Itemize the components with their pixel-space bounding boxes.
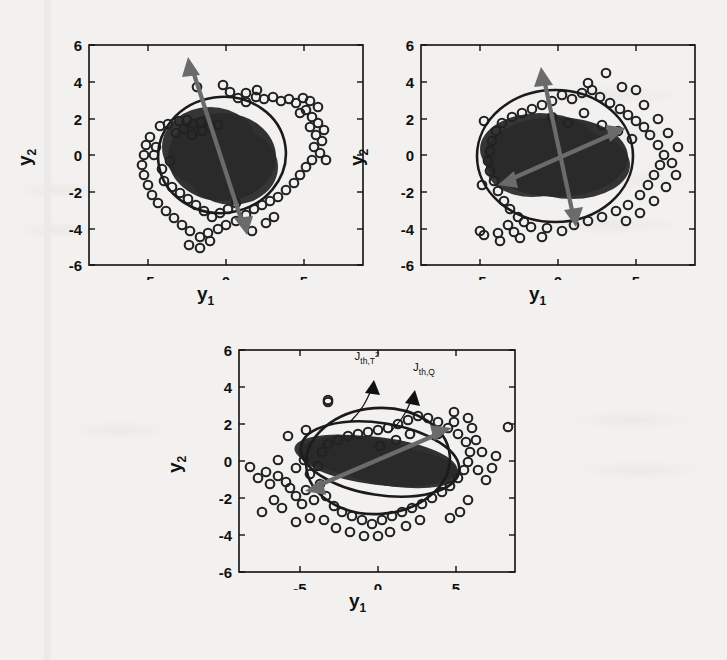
- svg-text:0: 0: [224, 453, 232, 470]
- svg-text:0: 0: [406, 147, 414, 164]
- svg-text:-5: -5: [473, 273, 486, 280]
- svg-text:6: 6: [406, 37, 414, 54]
- x-tick-labels-2: -5 0 5: [473, 273, 640, 280]
- svg-text:5: 5: [632, 273, 640, 280]
- svg-text:4: 4: [74, 74, 83, 91]
- y-axis-label-2: y2: [346, 149, 371, 166]
- panel-top-right: 6 4 2 0 -2 -4 -6 -5 0 5: [392, 35, 712, 280]
- svg-text:-6: -6: [219, 564, 232, 581]
- label-leader-t2: [350, 380, 380, 422]
- y-tick-labels-1: 6 4 2 0 -2 -4 -6: [69, 37, 83, 274]
- svg-text:5: 5: [300, 273, 308, 280]
- svg-text:0: 0: [74, 147, 82, 164]
- svg-text:6: 6: [74, 37, 82, 54]
- svg-text:-2: -2: [69, 184, 82, 201]
- plot-top-right: 6 4 2 0 -2 -4 -6 -5 0 5: [392, 35, 712, 280]
- svg-text:0: 0: [374, 580, 382, 590]
- svg-text:-6: -6: [69, 257, 82, 274]
- svg-text:4: 4: [406, 74, 415, 91]
- svg-text:-5: -5: [293, 580, 306, 590]
- panel-bottom: 6 4 2 0 -2 -4 -6 -5 0 5: [210, 340, 540, 590]
- svg-text:2: 2: [74, 111, 82, 128]
- svg-text:-5: -5: [141, 273, 154, 280]
- x-tick-labels-3: -5 0 5: [293, 580, 460, 590]
- svg-text:-4: -4: [69, 221, 83, 238]
- y-tick-labels-2: 6 4 2 0 -2 -4 -6: [401, 37, 415, 274]
- svg-text:-4: -4: [401, 221, 415, 238]
- svg-text:-2: -2: [401, 184, 414, 201]
- svg-text:4: 4: [224, 379, 233, 396]
- annotation-jth-q: Jth,Q: [413, 361, 435, 377]
- svg-text:-6: -6: [401, 257, 414, 274]
- svg-text:2: 2: [224, 416, 232, 433]
- panel-top-left: 6 4 2 0 -2 -4 -6 -5 0 5: [60, 35, 380, 280]
- y-axis-label-3: y2: [164, 456, 189, 473]
- svg-text:-2: -2: [219, 490, 232, 507]
- svg-text:5: 5: [452, 580, 460, 590]
- plot-bottom: 6 4 2 0 -2 -4 -6 -5 0 5: [210, 340, 540, 590]
- plot-top-left: 6 4 2 0 -2 -4 -6 -5 0 5: [60, 35, 380, 280]
- y-axis-label-1: y2: [14, 149, 39, 166]
- x-axis-label-2: y1: [529, 283, 546, 308]
- x-axis-label-3: y1: [349, 590, 366, 615]
- x-axis-label-1: y1: [197, 283, 214, 308]
- y-tick-labels-3: 6 4 2 0 -2 -4 -6: [219, 342, 233, 581]
- svg-text:2: 2: [406, 111, 414, 128]
- svg-text:-4: -4: [219, 527, 233, 544]
- svg-text:0: 0: [222, 273, 230, 280]
- x-tick-labels-1: -5 0 5: [141, 273, 308, 280]
- svg-text:6: 6: [224, 342, 232, 359]
- annotation-jth-t2: Jth,T2: [355, 350, 380, 366]
- svg-text:0: 0: [554, 273, 562, 280]
